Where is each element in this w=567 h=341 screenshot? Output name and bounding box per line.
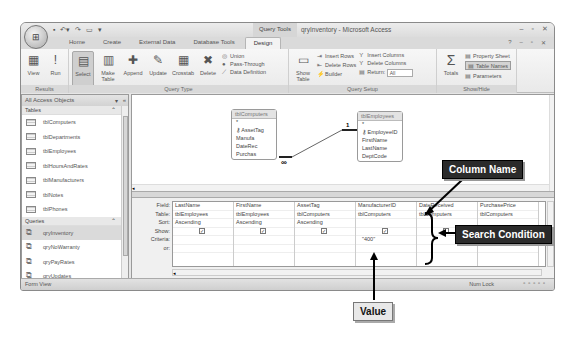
office-button[interactable]: ⊞	[24, 25, 48, 49]
callout-value: Value	[353, 302, 393, 321]
callout-search-condition: Search Condition	[455, 225, 552, 244]
callout-column-name: Column Name	[442, 160, 523, 179]
